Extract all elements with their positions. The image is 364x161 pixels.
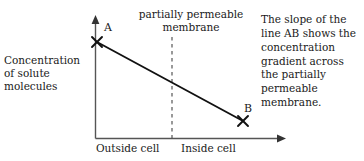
point-b-marker bbox=[238, 116, 248, 126]
point-b-label: B bbox=[244, 103, 252, 116]
x-axis-label-inside-cell: Inside cell bbox=[181, 142, 236, 154]
y-axis bbox=[92, 15, 100, 139]
x-axis-arrow-icon bbox=[277, 135, 286, 143]
x-axis-label-outside-cell: Outside cell bbox=[96, 142, 159, 154]
y-axis-arrow-icon bbox=[92, 15, 100, 24]
line-ab bbox=[97, 42, 243, 121]
point-a-marker bbox=[92, 37, 102, 47]
membrane-annotation-label: partially permeable membrane bbox=[132, 8, 250, 34]
diagram-canvas: Concentration of solute molecules partia… bbox=[0, 0, 364, 161]
point-a-label: A bbox=[104, 22, 112, 35]
y-axis-label: Concentration of solute molecules bbox=[4, 54, 90, 93]
explanation-text: The slope of the line AB shows the conce… bbox=[261, 13, 362, 110]
